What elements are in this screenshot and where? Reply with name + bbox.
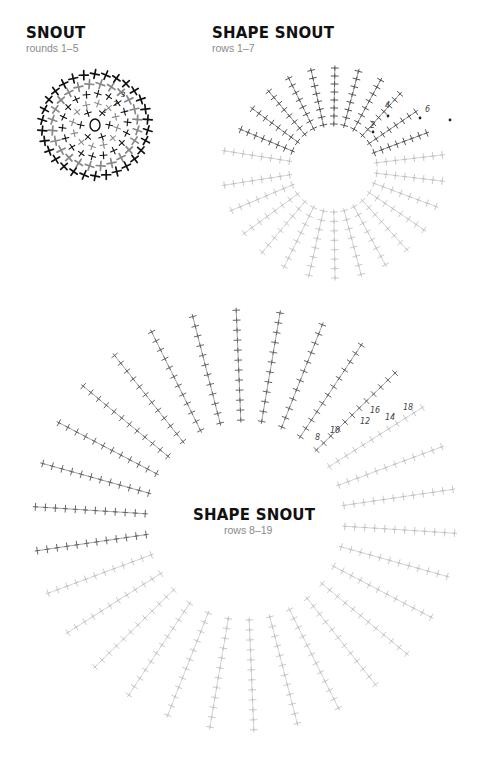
- crochet-charts: 123 246 81012141618: [0, 0, 481, 758]
- shape-snout-rows-8-19-chart: 81012141618: [33, 308, 456, 732]
- svg-text:10: 10: [330, 426, 340, 435]
- svg-text:16: 16: [370, 406, 380, 415]
- svg-text:12: 12: [360, 417, 370, 426]
- svg-text:2: 2: [370, 121, 375, 130]
- svg-text:14: 14: [385, 413, 395, 422]
- svg-text:8: 8: [315, 433, 320, 442]
- svg-text:4: 4: [385, 101, 390, 110]
- svg-text:1: 1: [103, 107, 107, 114]
- svg-text:6: 6: [425, 105, 430, 114]
- svg-text:2: 2: [113, 100, 118, 108]
- svg-text:3: 3: [121, 91, 125, 99]
- svg-text:18: 18: [403, 403, 413, 412]
- shape-snout-rows-1-7-chart: 246: [222, 66, 451, 280]
- snout-round-chart: 123: [38, 70, 152, 181]
